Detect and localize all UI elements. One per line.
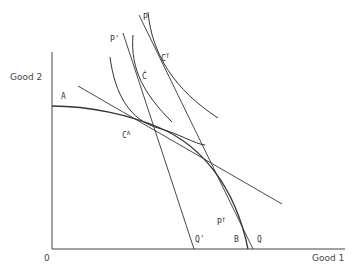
origin-label: 0 [44,254,50,263]
label-P-prime: P' [110,36,120,44]
price-line-PQ [139,15,253,249]
label-P: P [143,14,148,22]
label-C-hat: Ĉ [142,73,147,81]
label-C-A: CA [122,130,130,140]
x-axis-label: Good 1 [312,254,344,263]
label-B: B [234,236,239,244]
label-P-T: PT [217,217,225,227]
label-A: A [61,93,66,101]
trade-diagram: Good 2 Good 1 0 A CA Ĉ CT P P' PT Q' B Q [0,0,354,274]
label-Q-prime: Q' [195,236,205,244]
label-Q: Q [257,236,262,244]
autarky-price-line [78,86,282,204]
diagram-canvas [0,0,354,274]
indifference-curve-trade [148,12,218,118]
indifference-curve-c-hat [133,35,172,122]
y-axis-label: Good 2 [10,73,42,82]
label-C-T: CT [161,53,169,63]
